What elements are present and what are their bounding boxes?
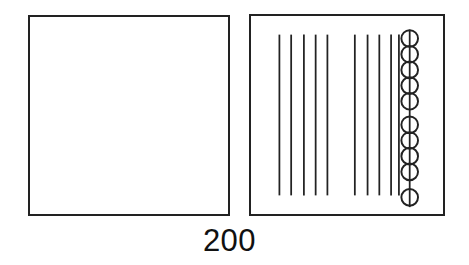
chain-circle-icon (401, 93, 418, 110)
chain-circle-icon (401, 148, 418, 165)
figure-root: 200 (0, 0, 469, 265)
chain-circle-icon (401, 30, 418, 47)
chain-circle-icon (401, 62, 418, 79)
chain-circle-icon (401, 116, 418, 133)
caption-value: 200 (203, 222, 256, 260)
figure-caption: 200 (0, 222, 469, 260)
chain-circle-icon (401, 132, 418, 149)
vertical-line-group-left (279, 35, 327, 196)
chain-circle-icon (401, 77, 418, 94)
right-panel-graphics (251, 16, 443, 214)
chain-circle-icon (401, 46, 418, 63)
left-panel (28, 15, 230, 216)
chain-circle-icon (401, 189, 418, 206)
vertical-line-group-right (355, 35, 399, 196)
chain-circle-icon (401, 164, 418, 181)
circle-chain-column (401, 30, 418, 207)
right-panel (249, 14, 445, 216)
